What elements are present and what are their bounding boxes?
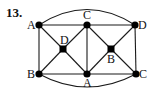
round-vertex-icon xyxy=(35,21,42,28)
vertex-label: D xyxy=(60,33,69,47)
edge-n3-n5 xyxy=(111,25,135,49)
round-vertex-icon xyxy=(83,21,90,28)
straight-edges xyxy=(39,25,136,74)
edge-n3-n8 xyxy=(135,25,136,74)
edge-n4-n6 xyxy=(39,49,63,74)
vertex-label: C xyxy=(83,8,91,22)
vertex-label: A xyxy=(27,18,36,32)
edge-n2-n5 xyxy=(87,25,111,49)
vertex-label: C xyxy=(139,67,147,81)
vertex-label: B xyxy=(27,67,35,81)
round-vertex-icon xyxy=(35,70,42,77)
graph-diagram: 13. ACDDBBAC xyxy=(0,0,156,89)
vertex-label: A xyxy=(83,76,92,89)
vertex-label: B xyxy=(107,52,115,66)
problem-number: 13. xyxy=(6,5,22,20)
vertex-label: D xyxy=(138,18,147,32)
edge-n4-n7 xyxy=(63,49,87,74)
